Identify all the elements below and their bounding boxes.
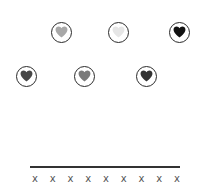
heart-token-5[interactable] [74,66,95,87]
heart-icon [112,26,125,38]
answer-slot-1[interactable]: x [28,172,42,186]
heart-icon [55,26,68,38]
answer-slot-8[interactable]: x [152,172,166,186]
answer-slot-4[interactable]: x [81,172,95,186]
heart-icon [78,70,91,82]
heart-icon [173,26,186,38]
answer-slot-2[interactable]: x [46,172,60,186]
answer-slot-3[interactable]: x [64,172,78,186]
heart-icon [140,70,153,82]
heart-token-1[interactable] [51,22,72,43]
answer-slot-5[interactable]: x [99,172,113,186]
answer-slots: x x x x x x x x x [28,172,184,186]
heart-token-6[interactable] [136,66,157,87]
answer-slot-7[interactable]: x [135,172,149,186]
heart-token-2[interactable] [108,22,129,43]
answer-baseline [30,166,180,168]
answer-slot-6[interactable]: x [117,172,131,186]
heart-token-3[interactable] [169,22,190,43]
answer-slot-9[interactable]: x [170,172,184,186]
heart-token-4[interactable] [16,66,37,87]
heart-icon [20,70,33,82]
